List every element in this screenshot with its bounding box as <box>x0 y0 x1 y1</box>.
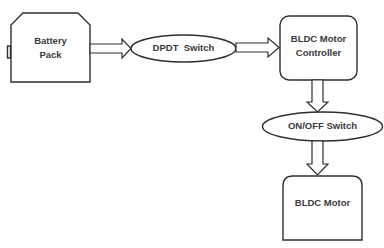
controller-label-line1: BLDC Motor <box>280 32 357 46</box>
battery-label-line2: Pack <box>11 48 90 62</box>
bldc-motor-label: BLDC Motor <box>283 196 362 210</box>
arrow-onoff-to-motor <box>307 141 328 175</box>
onoff-switch-label: ON/OFF Switch <box>262 119 383 133</box>
controller-label: BLDC Motor Controller <box>280 32 357 60</box>
arrow-battery-to-dpdt <box>90 39 131 58</box>
arrow-dpdt-to-controller <box>236 38 279 57</box>
battery-pack-label: Battery Pack <box>11 34 90 62</box>
controller-label-line2: Controller <box>280 46 357 60</box>
dpdt-switch-label: DPDT Switch <box>131 41 236 55</box>
arrow-controller-to-onoff <box>307 80 328 112</box>
battery-label-line1: Battery <box>11 34 90 48</box>
diagram-canvas: Battery Pack DPDT Switch BLDC Motor Cont… <box>0 0 384 248</box>
